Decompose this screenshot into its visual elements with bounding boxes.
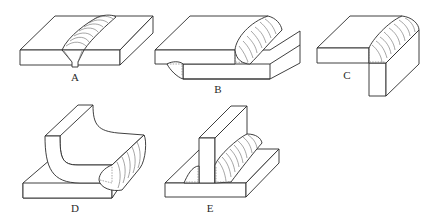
- label-e: E: [207, 202, 214, 214]
- panel-a-butt-joint: A: [20, 15, 153, 83]
- label-c: C: [343, 69, 350, 81]
- web-front: [199, 138, 215, 183]
- vertical-plate-front: [369, 63, 386, 96]
- label-d: D: [71, 202, 79, 214]
- label-b: B: [214, 83, 221, 95]
- weld-joints-diagram: A B: [0, 0, 441, 218]
- panel-d-edge-joint: D: [23, 105, 146, 214]
- horizontal-plate-front: [317, 48, 369, 63]
- panel-c-corner-joint: C: [317, 16, 419, 96]
- panel-e-tee-joint: E: [165, 106, 279, 214]
- upper-plate-front: [155, 50, 235, 64]
- fillet-weld-end: [167, 62, 183, 79]
- panel-b-lap-joint: B: [155, 16, 300, 95]
- base-plate-front: [165, 183, 246, 197]
- label-a: A: [71, 71, 79, 83]
- base-plate-front: [23, 183, 112, 198]
